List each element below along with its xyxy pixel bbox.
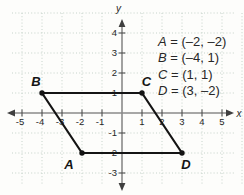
legend-point-coords: = (1, 1) — [167, 67, 212, 82]
vertex-label-B: B — [31, 74, 40, 89]
x-axis-right-arrow-icon — [226, 109, 234, 116]
x-tick-label: -2 — [76, 116, 84, 127]
vertex-dot-B — [39, 90, 44, 95]
x-tick-label: -4 — [36, 116, 44, 127]
legend-point-name: B — [158, 50, 167, 65]
x-tick-label: 4 — [199, 116, 204, 127]
y-axis-label: y — [115, 3, 122, 14]
legend-line-C: C = (1, 1) — [158, 67, 213, 82]
legend-point-coords: = (–2, –2) — [167, 34, 227, 49]
vertex-label-D: D — [181, 157, 191, 172]
legend-line-B: B = (–4, 1) — [158, 50, 219, 65]
parallelogram-outline — [42, 93, 182, 153]
y-axis-bottom-arrow-icon — [119, 183, 126, 191]
y-tick-label: 2 — [112, 67, 117, 78]
legend-point-coords: = (3, –2) — [167, 83, 219, 98]
x-tick-label: 3 — [179, 116, 184, 127]
y-tick-label: -1 — [109, 127, 117, 138]
vertex-dot-C — [139, 90, 144, 95]
x-tick-label: -5 — [16, 116, 24, 127]
y-tick-label: 3 — [112, 47, 117, 58]
legend-point-name: A — [157, 34, 167, 49]
x-tick-label: 1 — [139, 116, 144, 127]
legend-point-coords: = (–4, 1) — [167, 50, 219, 65]
legend-line-A: A = (–2, –2) — [157, 34, 226, 49]
y-tick-label: 4 — [112, 27, 117, 38]
x-axis-label: x — [236, 108, 243, 119]
y-tick-label: -3 — [109, 167, 117, 178]
parallelogram-plot-svg: -5-4-3-2-1123454321-1-2-3xyABCDA = (–2, … — [0, 0, 244, 195]
vertex-label-A: A — [63, 157, 73, 172]
x-tick-label: -1 — [96, 116, 104, 127]
vertex-label-C: C — [142, 74, 152, 89]
vertex-dot-D — [179, 150, 184, 155]
legend-point-name: D — [158, 83, 167, 98]
coordinate-plane-figure: -5-4-3-2-1123454321-1-2-3xyABCDA = (–2, … — [0, 0, 244, 195]
vertex-dot-A — [79, 150, 84, 155]
y-axis-top-arrow-icon — [119, 19, 126, 27]
legend-line-D: D = (3, –2) — [158, 83, 220, 98]
x-axis-left-arrow-icon — [7, 109, 15, 116]
x-tick-label: 5 — [219, 116, 224, 127]
